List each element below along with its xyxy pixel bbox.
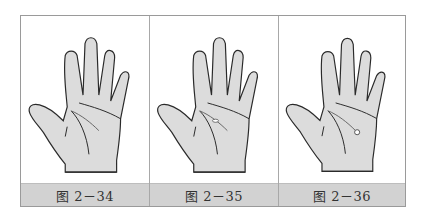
figure-caption: 图 2－34 <box>21 183 149 206</box>
hand-illustration <box>279 16 405 183</box>
hand-illustration <box>21 16 149 183</box>
hand-illustration <box>150 16 278 183</box>
palm-drawing-icon <box>150 16 278 183</box>
palm-drawing-icon <box>21 16 149 183</box>
panel-fig-2-34: 图 2－34 <box>21 16 149 206</box>
palm-drawing-icon <box>279 16 405 183</box>
dot-mark-icon <box>355 130 360 135</box>
panel-fig-2-36: 图 2－36 <box>278 16 405 206</box>
figure-caption: 图 2－36 <box>279 183 405 206</box>
island-mark-icon <box>213 119 219 122</box>
figure-caption: 图 2－35 <box>150 183 278 206</box>
panel-fig-2-35: 图 2－35 <box>149 16 278 206</box>
figure-box: 图 2－34 图 2－35 <box>20 15 406 207</box>
